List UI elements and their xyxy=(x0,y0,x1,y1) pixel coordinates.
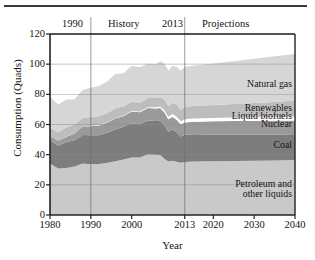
natural-gas-label: Natural gas xyxy=(247,79,292,90)
nuclear-label-line-1: Nuclear xyxy=(261,119,292,130)
coal-label: Coal xyxy=(273,140,292,151)
plot-area xyxy=(0,0,315,260)
petroleum-label-line-2: other liquids xyxy=(235,189,292,200)
figure-container: 1990 History 2013 Projections Consumptio… xyxy=(0,0,315,260)
natural-gas-label-line-1: Natural gas xyxy=(247,79,292,90)
nuclear-label: Nuclear xyxy=(261,119,292,130)
petroleum-label: Petroleum andother liquids xyxy=(235,179,292,200)
coal-label-line-1: Coal xyxy=(273,140,292,151)
